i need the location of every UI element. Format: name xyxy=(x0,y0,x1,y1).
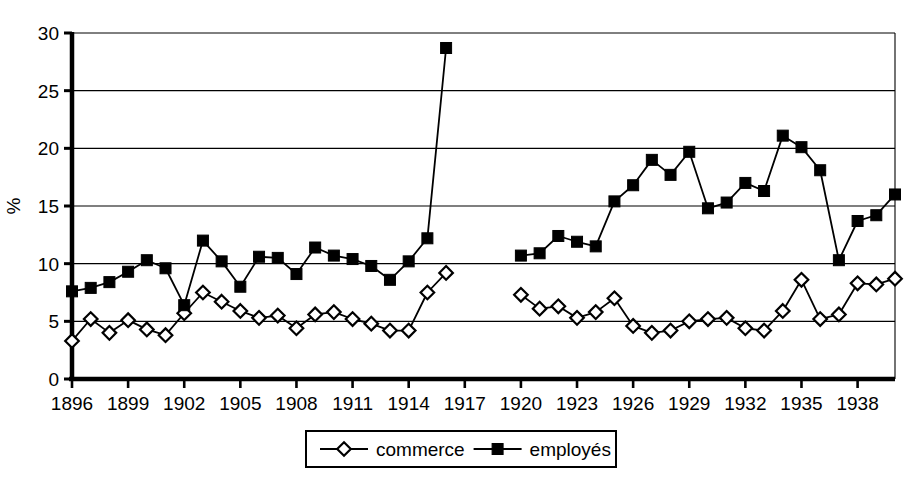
data-point-employés-1913 xyxy=(384,274,395,285)
data-point-employés-1923 xyxy=(572,236,583,247)
x-tick-label-1923: 1923 xyxy=(556,393,598,414)
x-tick-label-1932: 1932 xyxy=(724,393,766,414)
data-point-employés-1937 xyxy=(833,255,844,266)
data-point-employés-1900 xyxy=(141,255,152,266)
data-point-employés-1924 xyxy=(590,241,601,252)
y-tick-label-20: 20 xyxy=(38,138,59,159)
x-tick-label-1896: 1896 xyxy=(51,393,93,414)
line-chart-canvas: 051015202530 189618991902190519081911191… xyxy=(0,0,912,480)
y-tick-label-25: 25 xyxy=(38,81,59,102)
data-point-employés-1910 xyxy=(328,250,339,261)
data-point-employés-1932 xyxy=(740,177,751,188)
data-point-employés-1904 xyxy=(216,256,227,267)
x-tick-label-1905: 1905 xyxy=(219,393,261,414)
y-tick-label-30: 30 xyxy=(38,23,59,44)
data-point-employés-1929 xyxy=(684,146,695,157)
data-point-employés-1907 xyxy=(272,252,283,263)
data-point-employés-1911 xyxy=(347,254,358,265)
x-tick-label-1938: 1938 xyxy=(836,393,878,414)
y-tick-label-15: 15 xyxy=(38,196,59,217)
data-point-employés-1940 xyxy=(890,189,901,200)
legend-label-commerce: commerce xyxy=(376,439,465,460)
data-point-employés-1928 xyxy=(665,169,676,180)
data-point-employés-1905 xyxy=(235,281,246,292)
data-point-employés-1906 xyxy=(254,251,265,262)
data-point-employés-1934 xyxy=(777,130,788,141)
data-point-employés-1938 xyxy=(852,215,863,226)
data-point-employés-1921 xyxy=(534,248,545,259)
y-tick-label-10: 10 xyxy=(38,254,59,275)
data-point-employés-1935 xyxy=(796,142,807,153)
chart-figure: 051015202530 189618991902190519081911191… xyxy=(0,0,912,480)
data-point-employés-1912 xyxy=(366,260,377,271)
legend-marker-filled-square xyxy=(492,444,503,455)
data-point-employés-1903 xyxy=(197,235,208,246)
y-axis-title-group: % xyxy=(3,197,24,214)
data-point-employés-1897 xyxy=(85,282,96,293)
x-tick-label-1926: 1926 xyxy=(612,393,654,414)
data-point-employés-1896 xyxy=(67,286,78,297)
data-point-employés-1931 xyxy=(721,197,732,208)
y-axis-title: % xyxy=(3,197,24,214)
data-point-employés-1925 xyxy=(609,196,620,207)
x-tick-label-1935: 1935 xyxy=(780,393,822,414)
data-point-employés-1898 xyxy=(104,277,115,288)
x-tick-label-1899: 1899 xyxy=(107,393,149,414)
x-tick-label-1920: 1920 xyxy=(500,393,542,414)
data-point-employés-1933 xyxy=(759,186,770,197)
data-point-employés-1939 xyxy=(871,210,882,221)
data-point-employés-1922 xyxy=(553,230,564,241)
data-point-employés-1899 xyxy=(123,266,134,277)
data-point-employés-1914 xyxy=(403,256,414,267)
x-tick-label-1908: 1908 xyxy=(275,393,317,414)
x-tick-label-1902: 1902 xyxy=(163,393,205,414)
legend-label-employés: employés xyxy=(530,439,611,460)
data-point-employés-1916 xyxy=(441,42,452,53)
data-point-employés-1908 xyxy=(291,269,302,280)
data-point-employés-1927 xyxy=(646,154,657,165)
data-point-employés-1909 xyxy=(310,242,321,253)
x-axis-tick-labels-group: 1896189919021905190819111914191719201923… xyxy=(51,393,879,414)
x-tick-label-1914: 1914 xyxy=(388,393,431,414)
data-point-employés-1930 xyxy=(702,203,713,214)
data-point-employés-1936 xyxy=(815,165,826,176)
x-tick-label-1917: 1917 xyxy=(444,393,486,414)
x-tick-label-1911: 1911 xyxy=(332,393,373,414)
data-point-employés-1920 xyxy=(515,250,526,261)
data-point-employés-1902 xyxy=(179,300,190,311)
data-point-employés-1901 xyxy=(160,263,171,274)
y-tick-label-0: 0 xyxy=(48,369,59,390)
chart-legend: commerceemployés xyxy=(306,431,616,467)
data-point-employés-1915 xyxy=(422,233,433,244)
y-tick-label-5: 5 xyxy=(48,311,59,332)
data-point-employés-1926 xyxy=(628,180,639,191)
x-tick-label-1929: 1929 xyxy=(668,393,710,414)
